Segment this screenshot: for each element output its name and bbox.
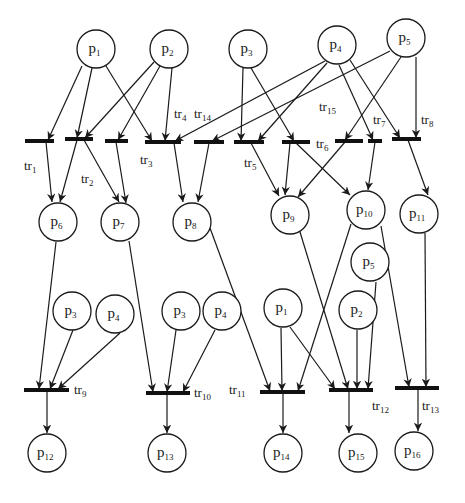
arc-tr6-to-p9 (285, 143, 290, 195)
transition-bar (194, 140, 224, 144)
arc-p2a-to-tr3 (165, 68, 172, 141)
transition-bar (392, 137, 421, 141)
transition-label: tr7 (373, 112, 386, 129)
arc-p3a-to-tr6 (251, 68, 294, 141)
arc-tr7-to-p10 (368, 142, 375, 190)
transition-tr4: tr4 (105, 106, 187, 143)
arc-p4c-to-tr10 (183, 330, 215, 392)
place-p5a: p5 (387, 19, 425, 57)
arc-tr2-to-p6 (60, 140, 77, 202)
arc-p1a-to-tr3 (106, 66, 152, 141)
transition-label: tr10 (194, 385, 211, 402)
arc-p4a-to-tr5 (258, 63, 327, 141)
place-p3c: p3 (162, 292, 200, 330)
transition-bar (368, 139, 382, 143)
arc-tr8-to-p11 (408, 140, 428, 195)
place-p5b: p5 (351, 243, 389, 281)
transition-bar (65, 137, 93, 141)
place-p4b: p4 (96, 295, 134, 333)
arc-p3c-to-tr10 (167, 330, 176, 392)
place-p7: p7 (101, 203, 139, 241)
transition-tr3: tr3 (140, 140, 181, 169)
place-p2a: p2 (150, 30, 188, 68)
arc-tr4-to-p7 (116, 142, 126, 203)
transition-label: tr8 (421, 112, 434, 129)
arc-tr3-to-p8 (174, 143, 183, 202)
place-p8: p8 (173, 203, 211, 241)
arc-p1a-to-tr2 (77, 68, 92, 138)
transition-tr5: tr5 (234, 140, 264, 172)
transition-label: tr1 (24, 158, 36, 175)
transition-bar (234, 140, 264, 144)
transition-bar (105, 139, 128, 143)
place-p3b: p3 (53, 292, 91, 330)
transition-tr12: tr12 (329, 388, 389, 415)
transition-tr13: tr13 (395, 386, 439, 415)
transition-tr10: tr10 (146, 385, 211, 402)
place-p15: p15 (339, 434, 377, 472)
place-p1b: p1 (264, 289, 302, 327)
arcs-layer (39, 51, 428, 433)
place-p4a: p4 (318, 26, 356, 64)
transition-tr14: tr14 (194, 106, 224, 144)
place-p9: p9 (271, 196, 309, 234)
arc-p4b-to-tr9 (58, 333, 120, 389)
arc-p1b-to-tr12 (290, 327, 335, 389)
transition-label: tr14 (194, 106, 211, 123)
transition-label: tr13 (422, 398, 439, 415)
arc-p4a-to-tr3 (175, 61, 325, 141)
arc-p1a-to-tr1 (48, 66, 82, 140)
place-p16: p16 (395, 432, 433, 470)
transition-label: tr5 (244, 155, 257, 172)
arc-tr1-to-p6 (46, 142, 52, 202)
transition-label: tr2 (81, 171, 93, 188)
place-p3a: p3 (229, 30, 267, 68)
transition-bar (24, 388, 69, 392)
transition-bar (395, 386, 439, 390)
arc-p1b-to-tr11 (281, 328, 282, 391)
transition-tr2: tr2 (65, 137, 93, 188)
place-p13: p13 (148, 434, 186, 472)
transition-tr1: tr1 (24, 139, 54, 175)
transition-bar (335, 139, 363, 143)
transition-label: tr6 (316, 136, 329, 153)
transition-bar (145, 140, 181, 144)
transition-bar (329, 388, 373, 392)
arc-tr14-to-p8 (198, 143, 209, 202)
petri-net-diagram: tr1tr2tr4tr3tr14tr5tr6tr15tr7tr8tr9tr10t… (0, 0, 465, 503)
transition-label: tr4 (174, 106, 187, 123)
arc-p4a-to-tr7 (339, 65, 373, 140)
transition-bar (25, 139, 54, 143)
place-p14: p14 (264, 434, 302, 472)
transition-bar (260, 390, 305, 394)
place-p12: p12 (28, 434, 66, 472)
place-p4c: p4 (203, 292, 241, 330)
transition-label: tr12 (372, 398, 389, 415)
transition-tr7: tr7 (368, 112, 386, 143)
place-p2b: p2 (339, 291, 377, 329)
transition-tr15: tr15 (319, 99, 363, 143)
place-p10: p10 (347, 191, 385, 229)
place-p6: p6 (39, 203, 77, 241)
transition-tr9: tr9 (24, 382, 87, 399)
transition-bar (146, 391, 190, 395)
arc-tr2-to-p7 (84, 140, 119, 202)
transition-tr8: tr8 (392, 112, 434, 141)
transition-label: tr9 (74, 382, 87, 399)
transition-label: tr11 (229, 382, 246, 399)
arc-p2a-to-tr4 (118, 66, 160, 140)
arc-p3b-to-tr9 (50, 330, 73, 389)
place-p11: p11 (400, 195, 438, 233)
arc-p11-to-tr13 (425, 233, 426, 387)
place-p1a: p1 (77, 30, 115, 68)
transition-bar (282, 140, 310, 144)
transition-label: tr3 (140, 152, 153, 169)
transition-label: tr15 (319, 99, 336, 116)
